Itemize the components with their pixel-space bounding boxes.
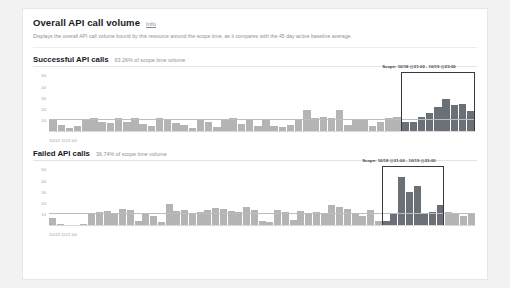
y-tick-label: 20 <box>41 201 46 206</box>
api-call-volume-panel: Overall API call volume Info Displays th… <box>22 8 488 280</box>
scope-annotation-label-successful: Scope: 10/18 @21:00 - 10/19 @23:00 <box>382 64 456 69</box>
chart-title-successful: Successful API calls <box>33 55 109 64</box>
baseline-line-successful <box>49 119 475 120</box>
plot-wrap-failed: 5040302010 Scope: 10/18 @21:00 - 10/19 @… <box>33 164 477 236</box>
bar[interactable] <box>251 210 258 226</box>
chart-failed-api-calls: Failed API calls 36.74% of scope time vo… <box>23 142 487 236</box>
scope-annotation-label-failed: Scope: 10/18 @21:00 - 10/19 @23:00 <box>362 158 436 163</box>
bar[interactable] <box>336 110 344 131</box>
x-axis-label-failed: 10/13 @21:00 <box>49 232 77 237</box>
x-axis-line-successful <box>49 131 475 132</box>
chart-title-failed: Failed API calls <box>33 149 90 158</box>
panel-description: Displays the overall API call volume bou… <box>33 33 477 40</box>
bar[interactable] <box>459 104 467 132</box>
bar[interactable] <box>467 111 475 131</box>
y-tick-label: 10 <box>41 212 46 217</box>
bar[interactable] <box>181 210 188 226</box>
y-tick-label: 50 <box>41 73 46 78</box>
page-title: Overall API call volume <box>33 17 140 28</box>
bar[interactable] <box>220 209 227 226</box>
info-link[interactable]: Info <box>146 21 156 27</box>
x-axis-line-failed <box>49 225 475 226</box>
plot-area-failed <box>49 164 475 226</box>
y-tick-label: 10 <box>41 118 46 123</box>
y-tick-label: 40 <box>41 178 46 183</box>
bar[interactable] <box>442 99 450 132</box>
baseline-line-failed <box>49 213 475 214</box>
plot-area-successful <box>49 70 475 132</box>
bar[interactable] <box>344 209 351 226</box>
y-tick-label: 30 <box>41 189 46 194</box>
bar[interactable] <box>398 177 405 225</box>
bar[interactable] <box>367 210 374 226</box>
y-tick-label: 20 <box>41 107 46 112</box>
bar[interactable] <box>406 192 413 226</box>
bar[interactable] <box>414 186 421 225</box>
bar[interactable] <box>426 113 434 132</box>
y-axis-failed: 5040302010 <box>33 164 49 226</box>
chart-subtitle-failed: 36.74% of scope time volume <box>96 151 167 157</box>
bar[interactable] <box>274 210 281 226</box>
bar[interactable] <box>336 207 343 226</box>
panel-title-row: Overall API call volume Info <box>33 17 477 28</box>
y-axis-successful: 5040302010 <box>33 70 49 132</box>
bar[interactable] <box>166 204 173 225</box>
panel-header: Overall API call volume Info Displays th… <box>23 9 487 48</box>
bar-series-successful[interactable] <box>49 70 475 132</box>
bar[interactable] <box>303 110 311 131</box>
bar[interactable] <box>328 205 335 225</box>
plot-wrap-successful: 5040302010 Scope: 10/18 @21:00 - 10/19 @… <box>33 70 477 142</box>
y-tick-label: 30 <box>41 95 46 100</box>
y-tick-label: 50 <box>41 167 46 172</box>
bar-series-failed[interactable] <box>49 164 475 226</box>
bar[interactable] <box>451 105 459 132</box>
bar[interactable] <box>204 210 211 226</box>
chart-successful-api-calls: Successful API calls 63.26% of scope tim… <box>23 48 487 142</box>
bar[interactable] <box>119 209 126 226</box>
chart-subtitle-successful: 63.26% of scope time volume <box>115 57 186 63</box>
bar[interactable] <box>243 207 250 226</box>
bar[interactable] <box>437 205 444 225</box>
y-tick-label: 40 <box>41 84 46 89</box>
bar[interactable] <box>212 208 219 226</box>
bar[interactable] <box>127 210 134 226</box>
